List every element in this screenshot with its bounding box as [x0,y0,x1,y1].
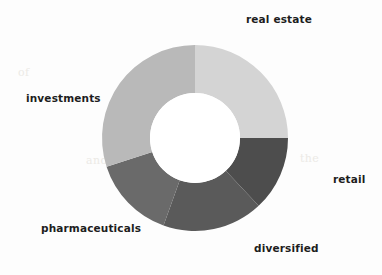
donut-center-hole [150,93,240,183]
slice-label-retail: retail [333,173,366,185]
slice-label-real-estate: real estate [246,13,312,25]
donut-slice-group [102,45,288,231]
slice-label-diversified: diversified [254,242,319,254]
slice-label-investments: investments [26,92,101,104]
slice-label-pharmaceuticals: pharmaceuticals [41,222,141,234]
chart-canvas: of and the real estate retail diversifie… [0,0,382,275]
